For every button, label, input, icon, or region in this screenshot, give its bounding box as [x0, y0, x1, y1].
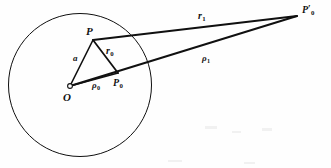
length-label-rho0-text: ρ	[92, 80, 97, 90]
length-label-rho1-subscript: 1	[207, 58, 210, 64]
segment-group	[70, 16, 297, 86]
length-label-r1-subscript: 1	[202, 15, 205, 22]
length-label-r0: r0	[106, 46, 113, 56]
point-label-o-text: O	[63, 91, 71, 103]
point-label-p0-prime-subscript: 0	[311, 9, 314, 16]
point-label-p-text: P	[86, 25, 93, 37]
point-label-p0-prime: P′0	[302, 5, 314, 16]
length-label-rho1-text: ρ	[202, 53, 207, 63]
point-label-p0-subscript: 0	[119, 82, 122, 89]
length-label-a: a	[73, 54, 78, 63]
point-label-o: O	[63, 92, 71, 103]
length-label-rho0-subscript: 0	[97, 85, 100, 91]
point-marker-group	[68, 84, 73, 89]
segment-rho1	[70, 16, 297, 86]
length-label-rho0: ρ0	[92, 81, 100, 90]
length-label-rho1: ρ1	[202, 54, 210, 63]
figure-canvas: P O P0 P′0 a r0 ρ0 r1 ρ1	[0, 0, 331, 168]
point-label-p: P	[86, 26, 93, 37]
length-label-a-text: a	[73, 53, 78, 63]
point-label-p0: P0	[113, 78, 123, 88]
point-marker-o	[68, 84, 73, 89]
length-label-r0-subscript: 0	[110, 50, 113, 57]
length-label-r1: r1	[198, 11, 205, 21]
figure-drawing	[0, 0, 331, 168]
